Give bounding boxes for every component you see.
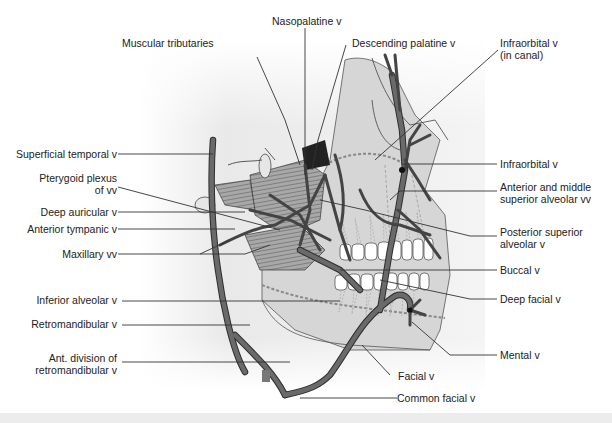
label-descending-palatine-v: Descending palatine v bbox=[352, 37, 455, 49]
label-infraorbital-v: Infraorbital v bbox=[500, 158, 558, 170]
label-anterior-tympanic-v: Anterior tympanic v bbox=[27, 223, 117, 235]
bottom-band bbox=[0, 413, 612, 423]
label-ant-division-retromandibular-v: Ant. division of retromandibular v bbox=[35, 352, 117, 376]
label-common-facial-v: Common facial v bbox=[397, 392, 475, 404]
label-deep-facial-v: Deep facial v bbox=[500, 293, 561, 305]
label-retromandibular-v: Retromandibular v bbox=[31, 318, 117, 330]
label-superficial-temporal-v: Superficial temporal v bbox=[16, 148, 117, 160]
label-infraorbital-v-in-canal: Infraorbital v (in canal) bbox=[500, 37, 558, 61]
label-muscular-tributaries: Muscular tributaries bbox=[122, 37, 214, 49]
label-mental-v: Mental v bbox=[500, 349, 540, 361]
label-posterior-superior-alveolar-v: Posterior superior alveolar v bbox=[500, 226, 583, 250]
label-anterior-middle-superior-alveolar-vv: Anterior and middle superior alveolar vv bbox=[500, 181, 591, 205]
label-pterygoid-plexus: Pterygoid plexus of vv bbox=[39, 172, 117, 196]
label-nasopalatine-v: Nasopalatine v bbox=[272, 15, 341, 27]
vein-stump bbox=[262, 370, 270, 382]
label-facial-v: Facial v bbox=[398, 370, 434, 382]
label-inferior-alveolar-v: Inferior alveolar v bbox=[36, 294, 117, 306]
label-maxillary-vv: Maxillary vv bbox=[62, 248, 117, 260]
anatomy-diagram: Nasopalatine v Muscular tributaries Desc… bbox=[0, 0, 612, 423]
label-deep-auricular-v: Deep auricular v bbox=[41, 206, 117, 218]
label-buccal-v: Buccal v bbox=[500, 264, 540, 276]
